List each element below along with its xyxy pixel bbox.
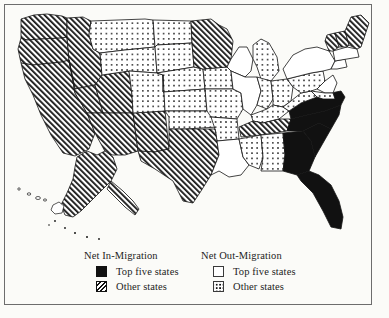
legend-label-in-top-five: Top five states xyxy=(116,266,179,277)
legend-title-out-migration: Net Out-Migration xyxy=(201,250,296,261)
state-AL xyxy=(261,133,285,171)
aleutian-islands xyxy=(48,220,100,240)
state-IA xyxy=(203,67,233,89)
state-OR xyxy=(18,37,69,65)
hatch-swatch-icon xyxy=(96,281,107,292)
legend-item-in-top-five: Top five states xyxy=(84,264,179,279)
us-map xyxy=(5,5,371,248)
legend-group-out-migration: Net Out-Migration Top five states Other … xyxy=(201,250,296,294)
state-HI xyxy=(18,188,64,214)
state-ME xyxy=(345,15,369,49)
legend-label-out-other: Other states xyxy=(233,281,284,292)
frame-right-rule xyxy=(371,4,372,305)
state-MO xyxy=(205,89,243,119)
legend-item-out-top-five: Top five states xyxy=(201,264,296,279)
dotted-swatch-icon xyxy=(213,281,224,292)
migration-map-figure: Net In-Migration Top five states Other s… xyxy=(0,0,389,318)
legend-group-in-migration: Net In-Migration Top five states Other s… xyxy=(84,250,179,294)
frame-bottom-rule xyxy=(4,304,372,305)
legend-item-in-other: Other states xyxy=(84,279,179,294)
solid-swatch-icon xyxy=(96,266,107,277)
empty-swatch-icon xyxy=(213,266,224,277)
legend-label-out-top-five: Top five states xyxy=(233,266,296,277)
state-AK xyxy=(61,151,117,217)
state-WA xyxy=(21,14,67,40)
legend-label-in-other: Other states xyxy=(116,281,167,292)
state-NM xyxy=(133,111,169,152)
legend-item-out-other: Other states xyxy=(201,279,296,294)
state-AK-panhandle xyxy=(107,181,139,215)
us-map-svg xyxy=(5,5,371,248)
legend-title-in-migration: Net In-Migration xyxy=(84,250,179,261)
state-MN xyxy=(191,19,233,69)
map-legend: Net In-Migration Top five states Other s… xyxy=(5,250,371,304)
state-FL xyxy=(297,171,343,229)
state-CO xyxy=(129,71,165,113)
state-MA xyxy=(333,47,359,61)
state-MI xyxy=(253,39,279,81)
